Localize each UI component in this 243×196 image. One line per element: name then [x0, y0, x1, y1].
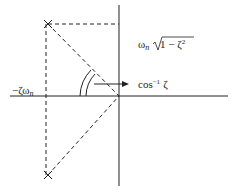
real-part-label: −ζωn [12, 84, 34, 98]
upper-radial-dashed [48, 24, 119, 96]
angle-arc-inner [86, 74, 95, 96]
imag-part-label: ωn 1 − ζ2 [138, 38, 186, 52]
lower-radial-dashed [48, 96, 119, 175]
angle-label: cos−1ζ [138, 78, 168, 91]
lower-pole-icon [44, 171, 52, 179]
arrow-head-icon [122, 81, 129, 87]
s-plane-diagram: −ζωn ωn 1 − ζ2 cos−1ζ [0, 0, 243, 196]
